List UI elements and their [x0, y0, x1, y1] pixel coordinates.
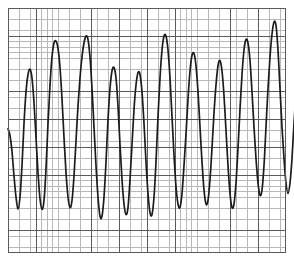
waveform-screenshot: [0, 0, 294, 263]
waveform-trace-line: [8, 21, 294, 218]
oscilloscope-chart: [8, 8, 286, 253]
waveform-trace-canvas: [8, 8, 286, 253]
